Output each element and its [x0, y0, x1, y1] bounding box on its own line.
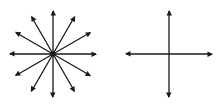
cross-arrows-icon [126, 11, 212, 97]
starburst-arrows-icon [10, 11, 96, 97]
diagram-canvas [0, 0, 224, 104]
center-dot [51, 52, 56, 57]
